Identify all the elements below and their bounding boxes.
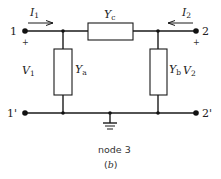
yb-subscript: b <box>176 68 181 77</box>
current-arrow-i2: I2 <box>168 6 193 26</box>
terminal-1-prime-label: 1' <box>7 107 17 120</box>
terminal-2 <box>193 28 199 34</box>
series-admittance-yc: Yc <box>88 8 133 40</box>
svg-text:Yb: Yb <box>169 63 181 77</box>
i2-subscript: 2 <box>186 11 191 20</box>
terminal-1 <box>22 28 28 34</box>
pi-network-diagram: Yc Ya Yb 1 2 1' 2' + + I1 I2 V1 <box>0 0 221 179</box>
terminal-2-label: 2 <box>202 25 209 38</box>
svg-text:V2: V2 <box>183 64 196 78</box>
ya-subscript: a <box>82 68 87 77</box>
terminal-2-prime <box>193 110 199 116</box>
svg-text:Yc: Yc <box>104 8 115 22</box>
terminal-2-prime-label: 2' <box>202 107 212 120</box>
junction-dot-bottom-left <box>61 111 65 115</box>
junction-dot-top-right <box>156 29 160 33</box>
shunt-admittance-yb: Yb <box>150 31 181 113</box>
yc-subscript: c <box>111 13 115 22</box>
svg-text:I2: I2 <box>181 6 191 20</box>
current-arrow-i1: I1 <box>28 6 53 26</box>
svg-text:V1: V1 <box>22 64 35 78</box>
v2-subscript: 2 <box>191 69 196 78</box>
svg-text:I1: I1 <box>29 6 39 20</box>
terminal-1-prime <box>22 110 28 116</box>
shunt-admittance-ya: Ya <box>54 31 87 113</box>
port2-plus-sign: + <box>193 38 200 47</box>
ground-node-label: node 3 <box>98 144 131 155</box>
junction-dot-top-left <box>61 29 65 33</box>
port1-plus-sign: + <box>22 38 29 47</box>
caption-close-paren: ) <box>114 159 118 170</box>
svg-text:(b): (b) <box>104 159 118 170</box>
v1-subscript: 1 <box>30 69 35 78</box>
svg-text:Ya: Ya <box>75 63 87 77</box>
i1-subscript: 1 <box>34 11 39 20</box>
ground-icon <box>103 113 117 129</box>
junction-dot-bottom-right <box>156 111 160 115</box>
terminal-1-label: 1 <box>10 25 17 38</box>
